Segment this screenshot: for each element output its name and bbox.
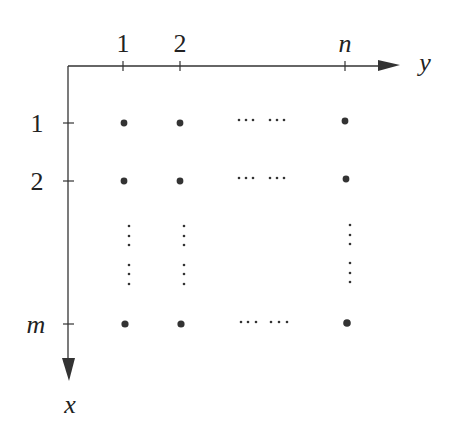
- y-axis-label: y: [416, 48, 431, 77]
- point-m-n: [343, 319, 351, 327]
- y-axis-arrow-icon: [378, 60, 400, 71]
- grid-points: [121, 118, 351, 328]
- row-label-1: 1: [31, 109, 44, 138]
- row-label-m: m: [27, 310, 46, 339]
- column-label-1: 1: [117, 29, 130, 58]
- column-label-n: n: [339, 29, 352, 58]
- point-1-1: [121, 120, 128, 127]
- lattice-diagram: 1 2 n y 1 2 m x: [0, 0, 457, 435]
- point-m-2: [177, 320, 184, 327]
- point-2-1: [121, 178, 128, 185]
- column-label-2: 2: [174, 29, 187, 58]
- point-2-n: [343, 176, 350, 183]
- row-label-2: 2: [31, 167, 44, 196]
- x-axis-arrow-icon: [62, 358, 75, 381]
- point-1-2: [177, 120, 184, 127]
- vertical-ellipses: [128, 224, 352, 286]
- x-axis-label: x: [63, 390, 76, 419]
- point-m-1: [121, 320, 128, 327]
- point-1-n: [342, 118, 349, 125]
- horizontal-ellipses: [238, 119, 289, 324]
- point-2-2: [177, 178, 184, 185]
